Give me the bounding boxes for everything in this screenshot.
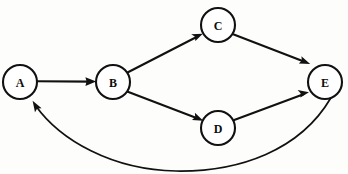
node-e-circle — [308, 65, 342, 99]
node-d-circle — [201, 111, 235, 145]
node-layer: A B C D E — [3, 8, 342, 145]
node-c[interactable]: C — [201, 8, 235, 42]
node-b-circle — [96, 65, 130, 99]
graph-canvas: A B C D E — [0, 0, 348, 174]
edge-b-to-d[interactable] — [128, 92, 204, 121]
edge-c-to-e[interactable] — [234, 35, 310, 64]
edge-e-to-a[interactable] — [33, 99, 331, 172]
edge-d-to-e-line — [234, 94, 303, 120]
node-a[interactable]: A — [3, 65, 37, 99]
edge-a-to-b-arrowhead — [85, 77, 96, 86]
edge-b-to-c-line — [128, 37, 198, 73]
edge-layer — [33, 34, 331, 171]
edge-b-to-c[interactable] — [128, 34, 203, 73]
edge-a-to-b[interactable] — [37, 77, 96, 86]
node-d[interactable]: D — [201, 111, 235, 145]
node-a-circle — [3, 65, 37, 99]
node-e[interactable]: E — [308, 65, 342, 99]
edge-c-to-e-line — [234, 35, 305, 62]
graph-diagram: A B C D E — [0, 0, 348, 174]
node-b[interactable]: B — [96, 65, 130, 99]
node-c-circle — [201, 8, 235, 42]
edge-e-to-a-curve — [36, 99, 331, 172]
edge-b-to-d-line — [128, 92, 198, 119]
edge-d-to-e[interactable] — [234, 90, 309, 120]
